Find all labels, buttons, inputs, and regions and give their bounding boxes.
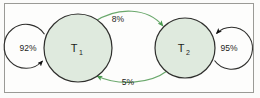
state-diagram: 92% 95% 8% 5% T 1 T 2	[0, 0, 260, 98]
state-node-t2-label: T	[178, 42, 185, 54]
figure-container: 92% 95% 8% 5% T 1 T 2	[0, 0, 260, 98]
transition-t2-to-t1: 5%	[97, 71, 167, 87]
self-loop-t2-label: 95%	[220, 43, 237, 53]
self-loop-t2: 95%	[215, 27, 253, 69]
self-loop-t1-label: 92%	[19, 43, 36, 53]
state-node-t2-circle[interactable]	[155, 18, 215, 78]
transition-t1-to-t2-path	[94, 11, 163, 26]
transition-t1-to-t2: 8%	[94, 11, 163, 26]
self-loop-t1: 92%	[4, 24, 44, 68]
transition-t1-to-t2-label: 8%	[112, 14, 125, 24]
state-node-t1-label: T	[71, 42, 78, 54]
state-node-t1-circle[interactable]	[44, 14, 112, 82]
transition-t2-to-t1-label: 5%	[122, 77, 135, 87]
state-node-t1-subscript: 1	[79, 49, 83, 56]
state-node-t1[interactable]: T 1	[44, 14, 112, 82]
state-node-t2-subscript: 2	[186, 49, 190, 56]
state-node-t2[interactable]: T 2	[155, 18, 215, 78]
